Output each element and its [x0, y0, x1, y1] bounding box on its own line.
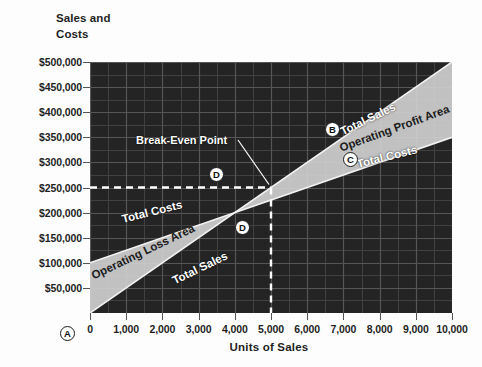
x-axis-tick-label: 1,000 [113, 323, 139, 335]
x-axis-title: Units of Sales [0, 341, 482, 353]
x-axis-tick-label: 6,000 [294, 323, 320, 335]
x-axis-tick-mark [416, 313, 417, 320]
x-axis-tick-mark [307, 313, 308, 320]
break-even-point-label: Break-Even Point [136, 134, 227, 146]
y-axis-tick-mark [83, 238, 90, 239]
x-axis-tick-label: 4,000 [222, 323, 248, 335]
x-axis-tick-label: 10,000 [436, 323, 468, 335]
x-axis-tick-mark [199, 313, 200, 320]
x-axis-tick-mark [380, 313, 381, 320]
y-axis-tick-mark [83, 213, 90, 214]
x-axis-tick-mark [343, 313, 344, 320]
x-axis-tick-mark [90, 313, 91, 320]
x-axis-tick-label: 3,000 [186, 323, 212, 335]
x-axis-tick-mark [452, 313, 453, 320]
y-axis-tick-label: $50,000 [2, 282, 82, 294]
x-axis-tick-label: 0 [87, 323, 93, 335]
x-axis-tick-mark [271, 313, 272, 320]
x-axis-title-text: Units of Sales [230, 341, 309, 353]
x-axis-tick-label: 8,000 [367, 323, 393, 335]
plot-graphics [90, 62, 452, 313]
y-axis-tick-mark [83, 263, 90, 264]
marker-b-total-sales: B [325, 122, 340, 137]
x-axis-tick-label: 5,000 [258, 323, 284, 335]
y-axis-tick-mark [83, 87, 90, 88]
x-axis-tick-label: 7,000 [331, 323, 357, 335]
plot-area [90, 62, 452, 313]
x-axis-tick-label: 9,000 [403, 323, 429, 335]
x-axis-tick-mark [126, 313, 127, 320]
y-axis-title: Sales and Costs [56, 10, 111, 42]
y-axis-tick-label: $500,000 [2, 56, 82, 68]
y-axis-tick-label: $450,000 [2, 81, 82, 93]
y-axis-tick-label: $250,000 [2, 182, 82, 194]
marker-c-total-costs: C [343, 152, 358, 167]
y-axis-tick-mark [83, 62, 90, 63]
x-axis-tick-mark [162, 313, 163, 320]
y-axis-tick-label: $200,000 [2, 207, 82, 219]
x-axis-tick-label: 2,000 [150, 323, 176, 335]
y-axis-tick-label: $350,000 [2, 131, 82, 143]
marker-d-lower: D [235, 220, 250, 235]
marker-a-origin: A [60, 326, 75, 341]
break-even-chart: Sales and Costs Units of Sales $50,000$1… [0, 0, 482, 367]
y-axis-tick-label: $400,000 [2, 106, 82, 118]
y-axis-tick-mark [83, 162, 90, 163]
y-axis-tick-label: $100,000 [2, 257, 82, 269]
y-axis-tick-label: $300,000 [2, 156, 82, 168]
y-axis-tick-mark [83, 188, 90, 189]
marker-d-upper: D [209, 167, 224, 182]
x-axis-tick-mark [235, 313, 236, 320]
y-axis-tick-label: $150,000 [2, 232, 82, 244]
y-axis-tick-mark [83, 112, 90, 113]
y-axis-tick-mark [83, 137, 90, 138]
y-axis-tick-mark [83, 288, 90, 289]
